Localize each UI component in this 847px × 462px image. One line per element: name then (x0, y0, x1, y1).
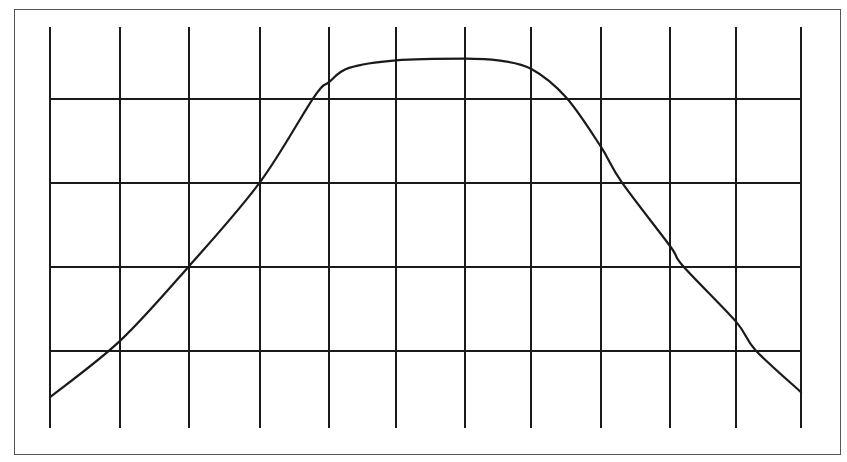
data-curve (50, 59, 801, 398)
vertical-gridlines (50, 27, 801, 428)
horizontal-gridlines (50, 99, 801, 351)
line-chart (0, 0, 847, 462)
